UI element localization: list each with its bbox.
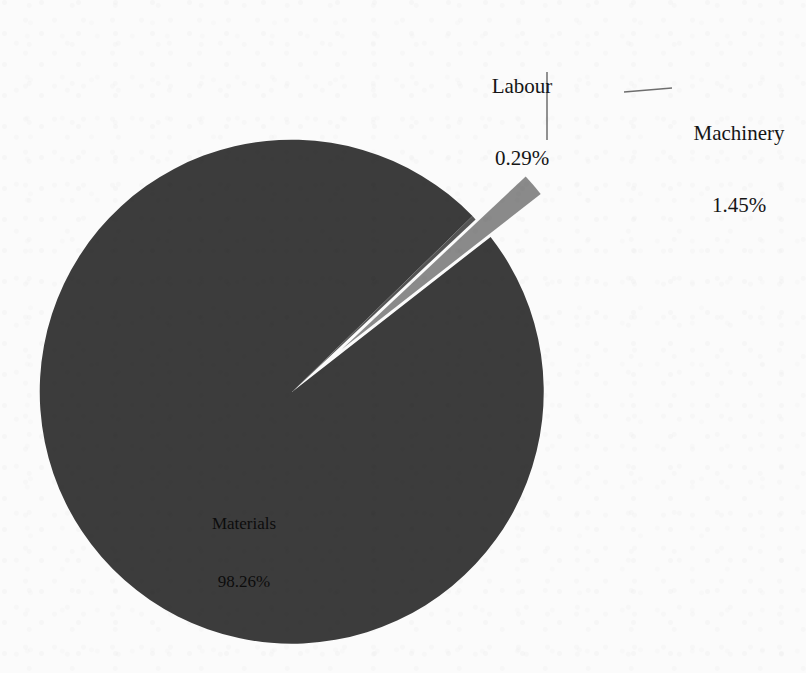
pie-chart: Labour 0.29% Machinery 1.45% Materials 9… <box>0 0 806 673</box>
slice-label-materials: Materials 98.26% <box>196 475 292 630</box>
slice-label-machinery-value: 1.45% <box>676 194 802 218</box>
slice-label-materials-value: 98.26% <box>196 572 292 591</box>
slice-label-labour-name: Labour <box>483 75 561 99</box>
slice-label-machinery: Machinery 1.45% <box>676 74 802 266</box>
slice-label-labour-value: 0.29% <box>483 147 561 171</box>
leader-line-machinery <box>624 88 672 92</box>
slice-label-labour: Labour 0.29% <box>483 27 561 219</box>
slice-label-materials-name: Materials <box>196 514 292 533</box>
slice-label-machinery-name: Machinery <box>676 122 802 146</box>
